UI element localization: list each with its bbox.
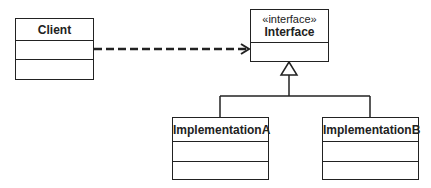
class-interface[interactable]: «interface» Interface — [250, 9, 329, 62]
class-implementation-b[interactable]: ImplementationB — [322, 117, 419, 180]
class-name: Interface — [251, 25, 328, 39]
attributes-section — [173, 142, 268, 162]
class-client[interactable]: Client — [15, 18, 94, 80]
operations-section — [173, 162, 268, 179]
class-implementation-a[interactable]: ImplementationA — [172, 117, 269, 180]
operations-section — [251, 43, 328, 61]
class-header: ImplementationB — [323, 118, 418, 142]
realization-triangle-icon — [281, 62, 297, 75]
class-name: ImplementationB — [323, 123, 418, 137]
operations-section — [323, 162, 418, 179]
class-header: Client — [16, 19, 93, 41]
class-name: ImplementationA — [173, 123, 268, 137]
operations-section — [16, 60, 93, 78]
class-header: «interface» Interface — [251, 10, 328, 43]
class-header: ImplementationA — [173, 118, 268, 142]
attributes-section — [16, 41, 93, 60]
class-name: Client — [16, 23, 93, 37]
stereotype-label: «interface» — [251, 13, 328, 25]
attributes-section — [323, 142, 418, 162]
